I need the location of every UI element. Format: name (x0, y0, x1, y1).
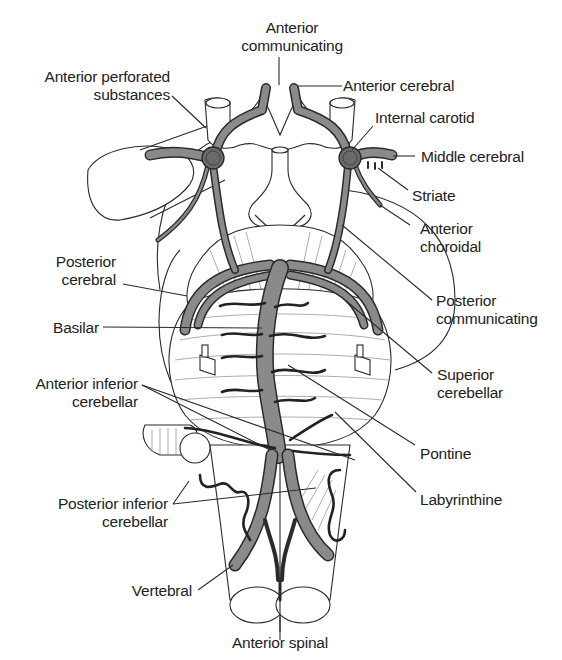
label-anterior-cerebral: Anterior cerebral (343, 77, 454, 95)
label-line: Posterior (36, 253, 116, 271)
label-line: Labyrinthine (420, 491, 502, 509)
label-line: Anterior perforated (28, 68, 170, 86)
label-pontine: Pontine (420, 445, 471, 463)
label-anterior-choroidal: Anterior choroidal (420, 220, 481, 256)
label-posterior-communicating: Posterior communicating (436, 292, 538, 328)
label-line: Anterior inferior (18, 375, 138, 393)
label-anterior-perforated-substances: Anterior perforated substances (28, 68, 170, 104)
label-line: Internal carotid (375, 109, 474, 127)
label-line: Middle cerebral (421, 148, 524, 166)
label-line: Pontine (420, 445, 471, 463)
label-labyrinthine: Labyrinthine (420, 491, 502, 509)
label-posterior-inferior-cerebellar: Posterior inferior cerebellar (40, 495, 168, 531)
label-line: Vertebral (110, 582, 192, 600)
label-line: cerebellar (40, 513, 168, 531)
label-superior-cerebellar: Superior cerebellar (437, 366, 503, 402)
label-line: Anterior (420, 220, 481, 238)
label-internal-carotid: Internal carotid (375, 109, 474, 127)
label-line: communicating (436, 310, 538, 328)
optic-chiasm (205, 95, 355, 230)
label-anterior-communicating: Anterior communicating (236, 19, 348, 55)
label-line: Superior (437, 366, 503, 384)
label-anterior-spinal: Anterior spinal (210, 634, 350, 652)
label-line: Anterior spinal (210, 634, 350, 652)
label-posterior-cerebral: Posterior cerebral (36, 253, 116, 289)
label-line: cerebellar (18, 393, 138, 411)
label-line: Posterior inferior (40, 495, 168, 513)
label-line: communicating (236, 37, 348, 55)
label-line: Striate (412, 187, 455, 205)
label-basilar: Basilar (36, 319, 99, 337)
label-line: Posterior (436, 292, 538, 310)
label-middle-cerebral: Middle cerebral (421, 148, 524, 166)
label-line: Anterior cerebral (343, 77, 454, 95)
label-vertebral: Vertebral (110, 582, 192, 600)
label-line: Anterior (236, 19, 348, 37)
label-line: cerebellar (437, 384, 503, 402)
label-line: substances (28, 86, 170, 104)
label-line: choroidal (420, 238, 481, 256)
label-striate: Striate (412, 187, 455, 205)
label-line: Basilar (36, 319, 99, 337)
label-line: cerebral (36, 271, 116, 289)
label-anterior-inferior-cerebellar: Anterior inferior cerebellar (18, 375, 138, 411)
